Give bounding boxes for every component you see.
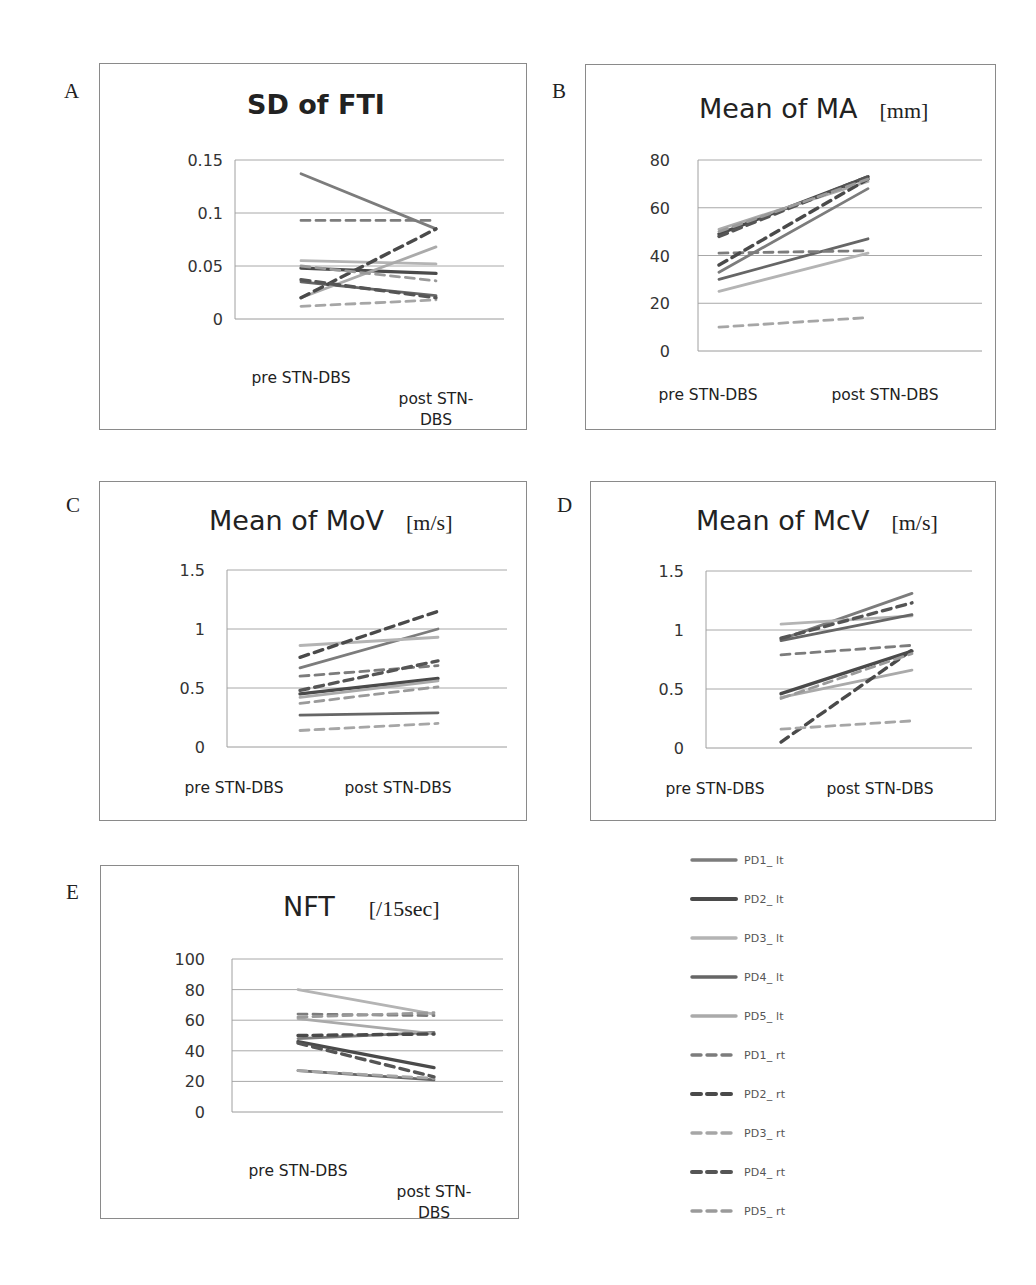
y-tick-label: 100 xyxy=(174,950,205,969)
line-chart-nft: 020406080100pre STN-DBSpost STN-DBS xyxy=(101,866,520,1220)
legend-item: PD3_ lt xyxy=(688,928,784,948)
x-category-label: post STN- xyxy=(397,1183,472,1201)
dashed-line-swatch-icon xyxy=(688,1089,738,1099)
series-line xyxy=(781,651,912,693)
solid-line-swatch-icon xyxy=(688,1011,738,1021)
x-category-label: post STN-DBS xyxy=(344,779,451,797)
x-category-label: pre STN-DBS xyxy=(666,780,765,798)
legend-item: PD1_ lt xyxy=(688,850,784,870)
y-tick-label: 0 xyxy=(674,739,684,758)
series-line xyxy=(298,1034,434,1036)
y-tick-label: 1.5 xyxy=(659,562,684,581)
legend-label: PD4_ lt xyxy=(744,971,784,984)
line-chart-mean-of-ma: 020406080pre STN-DBSpost STN-DBS xyxy=(586,65,997,431)
y-tick-label: 0.05 xyxy=(187,257,223,276)
y-tick-label: 40 xyxy=(185,1042,205,1061)
series-line xyxy=(298,1019,434,1034)
line-chart-mean-of-mov: 00.511.5pre STN-DBSpost STN-DBS xyxy=(100,482,528,822)
legend-label: PD2_ rt xyxy=(744,1088,785,1101)
legend-label: PD1_ lt xyxy=(744,854,784,867)
legend-item: PD4_ rt xyxy=(688,1162,785,1182)
series-line xyxy=(300,637,438,645)
y-tick-label: 0 xyxy=(660,342,670,361)
chart-panel-mean-of-ma: Mean of MA[mm] 020406080pre STN-DBSpost … xyxy=(585,64,996,430)
line-chart-mean-of-mcv: 00.511.5pre STN-DBSpost STN-DBS xyxy=(591,482,997,822)
series-line xyxy=(781,603,912,638)
panel-letter-d: D xyxy=(557,493,572,518)
series-line xyxy=(298,990,434,1014)
x-category-label: pre STN-DBS xyxy=(659,386,758,404)
series-line xyxy=(781,654,912,699)
y-tick-label: 0 xyxy=(195,1103,205,1122)
legend-label: PD3_ rt xyxy=(744,1127,785,1140)
legend-item: PD5_ lt xyxy=(688,1006,784,1026)
panel-letter-c: C xyxy=(66,493,80,518)
chart-panel-mean-of-mov: Mean of MoV[m/s] 00.511.5pre STN-DBSpost… xyxy=(99,481,527,821)
legend-label: PD2_ lt xyxy=(744,893,784,906)
y-tick-label: 0.15 xyxy=(187,151,223,170)
series-line xyxy=(300,629,438,668)
series-line xyxy=(781,615,912,641)
y-tick-label: 0.5 xyxy=(180,679,205,698)
solid-line-swatch-icon xyxy=(688,972,738,982)
y-tick-label: 0.5 xyxy=(659,680,684,699)
x-category-label: pre STN-DBS xyxy=(249,1162,348,1180)
solid-line-swatch-icon xyxy=(688,894,738,904)
legend-item: PD1_ rt xyxy=(688,1045,785,1065)
legend-item: PD5_ rt xyxy=(688,1201,785,1221)
x-category-label: DBS xyxy=(420,411,452,429)
y-tick-label: 1.5 xyxy=(180,561,205,580)
series-line xyxy=(298,1042,434,1068)
chart-panel-sd-of-fti: SD of FTI 00.050.10.15pre STN-DBSpost ST… xyxy=(99,63,527,430)
legend-label: PD1_ rt xyxy=(744,1049,785,1062)
series-line xyxy=(300,723,438,730)
x-category-label: post STN-DBS xyxy=(831,386,938,404)
legend-item: PD2_ lt xyxy=(688,889,784,909)
series-line xyxy=(719,318,868,328)
dashed-line-swatch-icon xyxy=(688,1167,738,1177)
series-line xyxy=(781,645,912,654)
x-category-label: pre STN-DBS xyxy=(252,369,351,387)
dashed-line-swatch-icon xyxy=(688,1128,738,1138)
dashed-line-swatch-icon xyxy=(688,1206,738,1216)
x-category-label: post STN-DBS xyxy=(826,780,933,798)
legend-item: PD4_ lt xyxy=(688,967,784,987)
y-tick-label: 60 xyxy=(185,1011,205,1030)
solid-line-swatch-icon xyxy=(688,933,738,943)
dashed-line-swatch-icon xyxy=(688,1050,738,1060)
x-category-label: DBS xyxy=(418,1204,450,1222)
y-tick-label: 60 xyxy=(650,199,670,218)
legend-label: PD5_ rt xyxy=(744,1205,785,1218)
y-tick-label: 0 xyxy=(213,310,223,329)
x-category-label: pre STN-DBS xyxy=(185,779,284,797)
legend-item: PD2_ rt xyxy=(688,1084,785,1104)
y-tick-label: 0.1 xyxy=(198,204,223,223)
y-tick-label: 0 xyxy=(195,738,205,757)
chart-panel-nft: NFT[/15sec] 020406080100pre STN-DBSpost … xyxy=(100,865,519,1219)
panel-letter-b: B xyxy=(552,79,566,104)
legend-item: PD3_ rt xyxy=(688,1123,785,1143)
legend-label: PD3_ lt xyxy=(744,932,784,945)
y-tick-label: 40 xyxy=(650,247,670,266)
y-tick-label: 80 xyxy=(650,151,670,170)
chart-panel-mean-of-mcv: Mean of McV[m/s] 00.511.5pre STN-DBSpost… xyxy=(590,481,996,821)
line-chart-sd-of-fti: 00.050.10.15pre STN-DBSpost STN-DBS xyxy=(100,64,528,431)
panel-letter-a: A xyxy=(64,79,79,104)
solid-line-swatch-icon xyxy=(688,855,738,865)
x-category-label: post STN- xyxy=(399,390,474,408)
y-tick-label: 20 xyxy=(185,1072,205,1091)
series-line xyxy=(781,721,912,729)
y-tick-label: 20 xyxy=(650,294,670,313)
y-tick-label: 1 xyxy=(674,621,684,640)
series-line xyxy=(300,713,438,715)
y-tick-label: 1 xyxy=(195,620,205,639)
legend-label: PD5_ lt xyxy=(744,1010,784,1023)
legend-label: PD4_ rt xyxy=(744,1166,785,1179)
panel-letter-e: E xyxy=(66,880,79,905)
series-line xyxy=(301,300,436,306)
y-tick-label: 80 xyxy=(185,981,205,1000)
series-line xyxy=(300,666,438,677)
series-line xyxy=(719,179,868,232)
